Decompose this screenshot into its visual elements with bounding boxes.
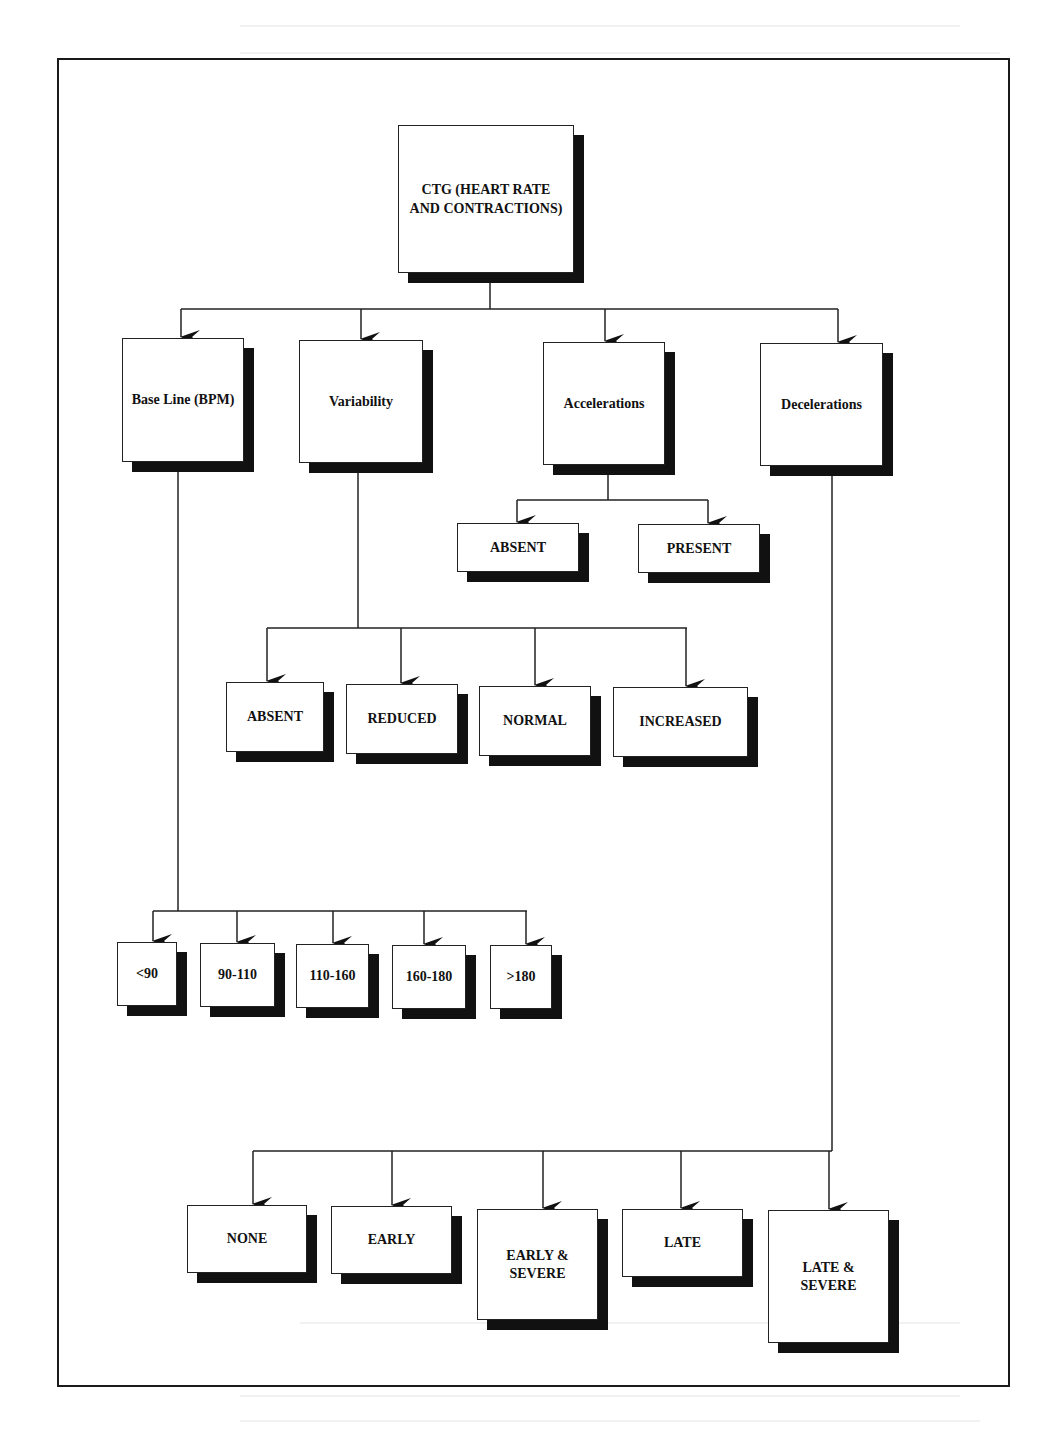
node-label: LATE & SEVERE — [800, 1259, 856, 1295]
node-label: LATE — [664, 1234, 701, 1252]
node-bpm-gt180: >180 — [490, 945, 552, 1009]
node-label: ABSENT — [247, 708, 303, 726]
node-accelerations: Accelerations — [543, 342, 665, 465]
node-label: NORMAL — [503, 712, 567, 730]
node-label: REDUCED — [367, 710, 436, 728]
node-label: INCREASED — [639, 713, 721, 731]
node-label: 110-160 — [310, 967, 356, 985]
node-bpm-lt90: <90 — [117, 942, 177, 1006]
node-label: CTG (HEART RATE AND CONTRACTIONS) — [410, 180, 563, 218]
node-bpm-160-180: 160-180 — [392, 945, 466, 1009]
node-accel-present: PRESENT — [638, 524, 760, 573]
node-var-reduced: REDUCED — [346, 684, 458, 754]
node-var-increased: INCREASED — [613, 687, 748, 757]
node-accel-absent: ABSENT — [457, 523, 579, 572]
node-decel-early: EARLY — [331, 1206, 452, 1274]
node-decel-none: NONE — [187, 1205, 307, 1273]
node-label: EARLY — [368, 1231, 416, 1249]
node-bpm-90-110: 90-110 — [200, 943, 275, 1007]
node-decel-late-severe: LATE & SEVERE — [768, 1210, 889, 1343]
node-label: Decelerations — [781, 396, 862, 414]
node-label: PRESENT — [667, 540, 732, 558]
node-label: >180 — [507, 968, 536, 986]
node-var-absent: ABSENT — [226, 682, 324, 752]
node-label: Accelerations — [564, 395, 645, 413]
node-bpm-110-160: 110-160 — [296, 944, 369, 1008]
node-baseline: Base Line (BPM) — [122, 338, 244, 462]
node-label: <90 — [136, 965, 158, 983]
node-label: NONE — [227, 1230, 267, 1248]
node-label: ABSENT — [490, 539, 546, 557]
node-label: EARLY & SEVERE — [506, 1247, 568, 1283]
node-decelerations: Decelerations — [760, 343, 883, 466]
node-label: Base Line (BPM) — [132, 391, 235, 409]
node-decel-early-severe: EARLY & SEVERE — [477, 1209, 598, 1320]
node-variability: Variability — [299, 340, 423, 463]
node-label: 90-110 — [218, 966, 257, 984]
node-decel-late: LATE — [622, 1209, 743, 1277]
node-label: Variability — [329, 393, 393, 411]
node-ctg-root: CTG (HEART RATE AND CONTRACTIONS) — [398, 125, 574, 273]
node-var-normal: NORMAL — [479, 686, 591, 756]
node-label: 160-180 — [406, 968, 453, 986]
